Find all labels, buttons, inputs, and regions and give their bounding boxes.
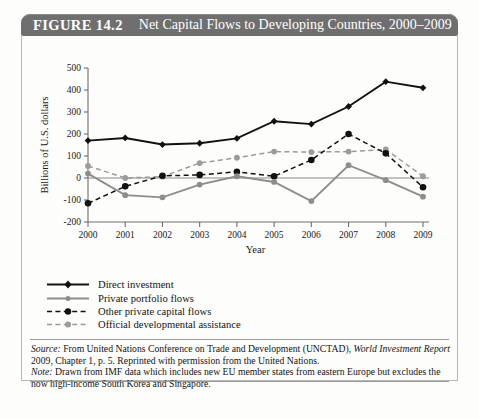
source-note: Source: From United Nations Conference o… bbox=[31, 343, 451, 366]
data-point bbox=[346, 162, 352, 168]
data-point bbox=[85, 163, 91, 169]
data-point bbox=[197, 182, 203, 188]
svg-text:300: 300 bbox=[67, 107, 82, 117]
data-point bbox=[85, 200, 92, 207]
data-point bbox=[420, 184, 427, 191]
legend-item: Official developmental assistance bbox=[46, 318, 346, 331]
svg-text:2007: 2007 bbox=[339, 230, 358, 240]
legend-key-private-portfolio-flows bbox=[46, 292, 90, 305]
svg-text:2004: 2004 bbox=[227, 230, 246, 240]
figure-container: FIGURE 14.2 Net Capital Flows to Develop… bbox=[0, 0, 479, 419]
legend-item: Other private capital flows bbox=[46, 305, 346, 318]
legend-label-official-developmental-assistance: Official developmental assistance bbox=[90, 319, 241, 330]
data-point bbox=[122, 175, 128, 181]
data-point bbox=[159, 173, 166, 180]
data-point bbox=[345, 131, 352, 138]
data-point bbox=[85, 137, 92, 144]
data-point bbox=[122, 183, 129, 190]
data-point bbox=[122, 135, 129, 142]
figure-notes: Source: From United Nations Conference o… bbox=[31, 343, 451, 389]
data-point bbox=[420, 84, 427, 91]
data-point bbox=[271, 179, 277, 185]
svg-text:Year: Year bbox=[246, 244, 266, 255]
data-point bbox=[383, 177, 389, 183]
svg-text:2000: 2000 bbox=[79, 230, 98, 240]
svg-text:2005: 2005 bbox=[265, 230, 284, 240]
data-point bbox=[234, 155, 240, 161]
source-text-2: 2009, Chapter 1, p. 5. Reprinted with pe… bbox=[31, 355, 319, 366]
series-line-other-private-capital-flows bbox=[88, 134, 423, 203]
notes-divider-top bbox=[30, 339, 449, 340]
data-point bbox=[346, 149, 352, 155]
legend-item: Direct investment bbox=[46, 278, 346, 291]
data-point bbox=[233, 135, 240, 142]
data-point bbox=[122, 192, 128, 198]
legend-key-direct-investment bbox=[46, 278, 90, 291]
svg-text:-100: -100 bbox=[64, 195, 82, 205]
svg-text:2008: 2008 bbox=[376, 230, 395, 240]
notes-divider-bottom bbox=[30, 381, 449, 382]
legend-label-private-portfolio-flows: Private portfolio flows bbox=[90, 293, 194, 304]
source-text-1: From United Nations Conference on Trade … bbox=[61, 343, 354, 354]
series-line-direct-investment bbox=[88, 82, 423, 145]
svg-text:2002: 2002 bbox=[153, 230, 172, 240]
chart-legend: Direct investment Private portfolio flow… bbox=[46, 278, 346, 332]
data-point bbox=[85, 171, 91, 177]
data-point bbox=[308, 149, 314, 155]
data-point bbox=[308, 198, 314, 204]
legend-label-other-private-capital-flows: Other private capital flows bbox=[90, 306, 211, 317]
data-point bbox=[420, 173, 426, 179]
data-point bbox=[160, 194, 166, 200]
data-point bbox=[382, 150, 389, 157]
data-point bbox=[159, 141, 166, 148]
legend-key-other-private-capital-flows bbox=[46, 305, 90, 318]
svg-text:2003: 2003 bbox=[190, 230, 209, 240]
data-point bbox=[420, 194, 426, 200]
legend-label-direct-investment: Direct investment bbox=[90, 279, 174, 290]
svg-text:500: 500 bbox=[67, 63, 82, 73]
svg-text:200: 200 bbox=[67, 129, 82, 139]
svg-text:0: 0 bbox=[76, 173, 81, 183]
data-point bbox=[271, 149, 277, 155]
data-point bbox=[196, 140, 203, 147]
note-text: Drawn from IMF data which includes new E… bbox=[31, 366, 440, 389]
source-publication-title: World Investment Report bbox=[354, 343, 451, 354]
svg-text:-200: -200 bbox=[64, 217, 82, 227]
data-point bbox=[271, 118, 278, 125]
svg-text:2009: 2009 bbox=[414, 230, 433, 240]
svg-text:2006: 2006 bbox=[302, 230, 321, 240]
svg-text:100: 100 bbox=[67, 151, 82, 161]
svg-text:400: 400 bbox=[67, 85, 82, 95]
data-point bbox=[308, 157, 315, 164]
legend-item: Private portfolio flows bbox=[46, 291, 346, 304]
data-point bbox=[271, 173, 278, 180]
data-point bbox=[308, 121, 315, 128]
data-note: Note: Drawn from IMF data which includes… bbox=[31, 366, 451, 389]
data-point bbox=[197, 160, 203, 166]
data-point bbox=[196, 172, 203, 179]
note-label: Note: bbox=[31, 366, 53, 377]
svg-text:Billions of U.S. dollars: Billions of U.S. dollars bbox=[39, 96, 50, 193]
legend-key-official-developmental-assistance bbox=[46, 318, 90, 331]
svg-text:2001: 2001 bbox=[116, 230, 135, 240]
source-label: Source: bbox=[31, 343, 61, 354]
data-point bbox=[234, 173, 240, 179]
